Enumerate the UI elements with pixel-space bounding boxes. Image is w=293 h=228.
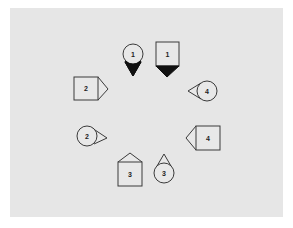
circle-marker-3: 3: [154, 154, 174, 183]
marker-diagram: 1 1 2 4 2 4 3 3: [0, 0, 293, 228]
square-marker-2: 2: [74, 77, 108, 100]
marker-label: 1: [131, 51, 135, 58]
square-marker-1: 1: [156, 42, 179, 77]
pointer-left-icon: [186, 126, 196, 150]
circle-marker-2: 2: [77, 126, 107, 146]
square-marker-4: 4: [186, 126, 220, 150]
marker-label: 3: [162, 170, 166, 177]
marker-label: 3: [128, 171, 132, 178]
square-marker-3: 3: [118, 153, 142, 186]
circle-marker-4: 4: [188, 81, 217, 101]
pointer-right-icon: [98, 77, 108, 100]
pointer-down-icon: [156, 66, 179, 77]
marker-label: 2: [84, 85, 88, 92]
marker-label: 1: [166, 51, 170, 58]
pointer-up-icon: [118, 153, 142, 162]
circle-marker-1: 1: [123, 44, 143, 76]
marker-label: 4: [206, 135, 210, 142]
marker-label: 4: [205, 88, 209, 95]
marker-label: 2: [85, 133, 89, 140]
